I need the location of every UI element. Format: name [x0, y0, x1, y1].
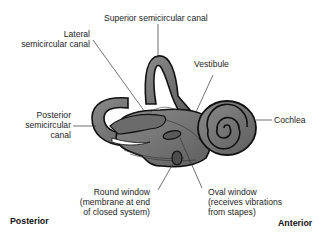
superior-semicircular-canal-shape [145, 56, 190, 112]
label-posterior-semicircular-canal: Posterior semicircular canal [10, 110, 71, 140]
label-superior-semicircular-canal: Superior semicircular canal [104, 13, 208, 23]
vestibule-shape [110, 107, 212, 167]
label-oval-window: Oval window (receives vibrations from st… [208, 187, 282, 217]
label-cochlea: Cochlea [274, 115, 306, 125]
label-round-window: Round window (membrane at end of closed … [72, 187, 150, 217]
orientation-anterior: Anterior [278, 218, 312, 228]
orientation-posterior: Posterior [10, 216, 49, 226]
cochlea-shape [198, 101, 256, 155]
label-lateral-semicircular-canal: Lateral semicircular canal [15, 29, 90, 49]
label-vestibule: Vestibule [194, 59, 229, 69]
